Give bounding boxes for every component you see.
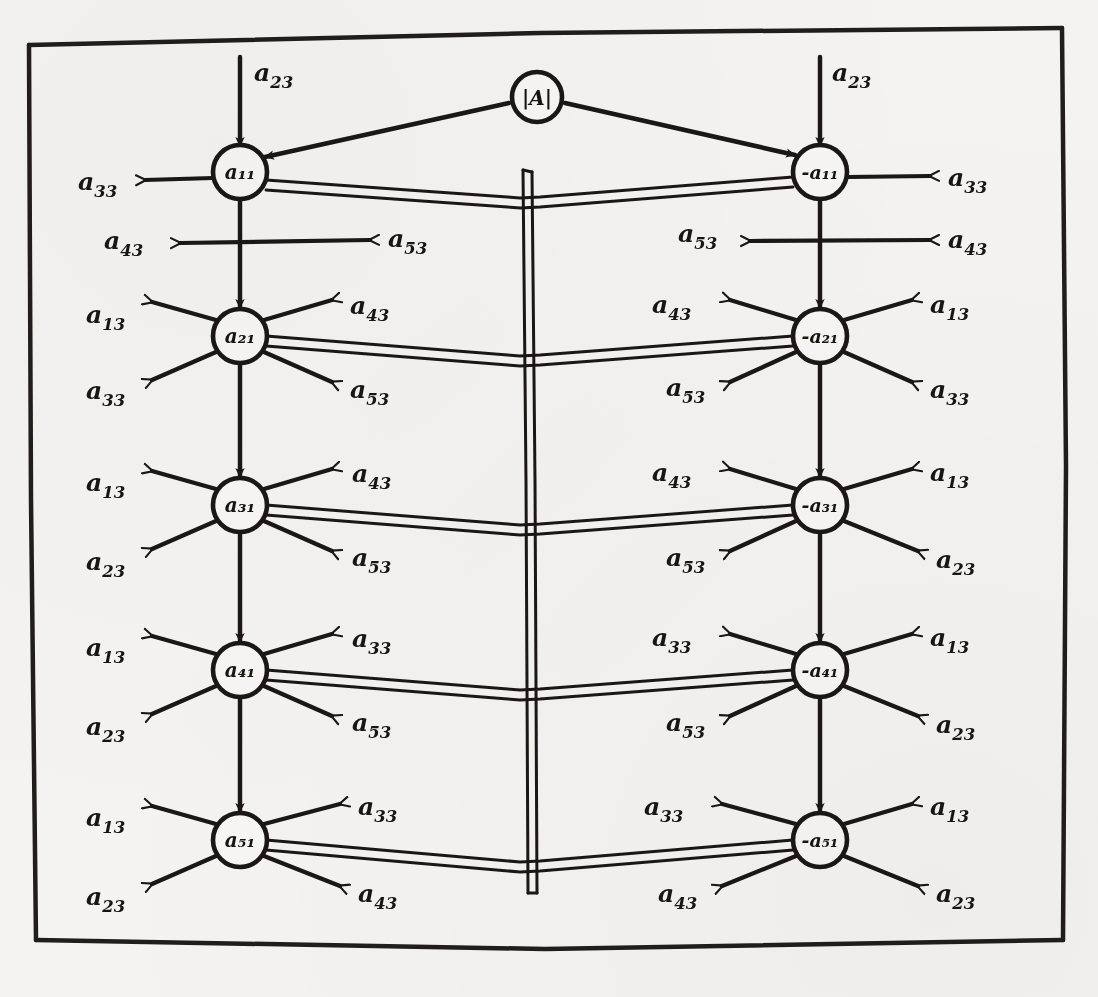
label-r2-left-ur: a43 <box>350 291 389 325</box>
node-a21-label: a₂₁ <box>225 324 255 348</box>
label-r3-right-ur: a13 <box>930 458 969 492</box>
label-r1-left-top: a23 <box>254 58 293 92</box>
diagram-canvas: |A| <box>0 0 1098 997</box>
wire-r4-right-ll <box>730 686 796 716</box>
label-r4-left-ul: a13 <box>86 633 125 667</box>
label-r2-left-ul: a13 <box>86 300 125 334</box>
diagram-frame <box>29 28 1066 949</box>
label-r1-left-crossL: a43 <box>104 226 143 260</box>
wire-r5-right-lr <box>844 856 918 886</box>
wire-r4-left-lr <box>264 686 332 716</box>
wire-r2-left-ur <box>264 300 332 320</box>
wire-r4-left-ur <box>264 634 332 654</box>
label-r2-left-lr: a53 <box>350 375 389 409</box>
label-r1-right-crossR: a43 <box>948 225 987 259</box>
wire-r2-right-ur <box>844 300 912 320</box>
node-a31-label: a₃₁ <box>225 493 255 517</box>
label-r2-right-lr: a33 <box>930 375 969 409</box>
label-r1-left-crossR: a53 <box>388 224 427 258</box>
node-neg-a11-label: -a₁₁ <box>802 161 839 183</box>
wire-r2-left-ul <box>152 302 216 320</box>
node-circles <box>213 145 847 867</box>
node-neg-a51-label: -a₅₁ <box>802 829 839 851</box>
wire-r5-right-ll <box>722 856 796 886</box>
wire-r3-left-ur <box>264 469 332 489</box>
wire-r3-left-lr <box>264 521 332 551</box>
wire-r5-left-ll <box>152 856 216 884</box>
wire-r1-right-a33 <box>848 176 930 177</box>
label-r5-right-ul: a33 <box>644 792 683 826</box>
label-r5-left-ur: a33 <box>358 792 397 826</box>
label-r5-left-ll: a23 <box>86 882 125 916</box>
wire-r5-left-ul <box>152 806 216 824</box>
label-r4-right-ll: a53 <box>666 708 705 742</box>
label-r5-right-ur: a13 <box>930 792 969 826</box>
node-neg-a31-label: -a₃₁ <box>802 494 839 516</box>
wire-r5-left-lr <box>264 856 340 886</box>
label-r5-left-lr: a43 <box>358 879 397 913</box>
wire-r5-right-ur <box>844 804 912 824</box>
label-r2-left-ll: a33 <box>86 376 125 410</box>
edge-det-to-neg-a11 <box>565 103 795 155</box>
wire-r1-left-cross <box>180 240 370 243</box>
wire-r2-left-ll <box>152 352 216 380</box>
node-a51-label: a₅₁ <box>225 828 255 852</box>
wire-r2-left-lr <box>264 352 332 382</box>
label-r3-right-ul: a43 <box>652 458 691 492</box>
label-r2-right-ur: a13 <box>930 290 969 324</box>
label-r1-left-side: a33 <box>78 167 117 201</box>
node-a41-label: a₄₁ <box>225 658 255 682</box>
wire-r2-right-ul <box>730 300 796 320</box>
node-a11-label: a₁₁ <box>225 160 255 184</box>
wire-r3-left-ll <box>152 521 216 549</box>
label-r4-left-ur: a33 <box>352 624 391 658</box>
label-r3-left-ur: a43 <box>352 459 391 493</box>
rail-r5-upper <box>266 840 793 862</box>
label-r1-right-side: a33 <box>948 163 987 197</box>
label-r3-left-ul: a13 <box>86 468 125 502</box>
label-r2-right-ul: a43 <box>652 290 691 324</box>
scanned-page: |A| <box>0 0 1098 997</box>
label-r1-right-crossL: a53 <box>678 219 717 253</box>
label-r5-right-ll: a43 <box>658 879 697 913</box>
wire-r5-left-ur <box>264 804 340 824</box>
label-r3-right-lr: a23 <box>936 545 975 579</box>
node-neg-a41-label: -a₄₁ <box>802 659 839 681</box>
label-r4-right-ur: a13 <box>930 623 969 657</box>
label-r5-left-ul: a13 <box>86 803 125 837</box>
center-bus-bar <box>523 170 537 893</box>
wire-r4-left-ul <box>152 636 216 654</box>
label-r3-right-ll: a53 <box>666 543 705 577</box>
label-r4-right-lr: a23 <box>936 710 975 744</box>
label-r5-right-lr: a23 <box>936 879 975 913</box>
label-r3-left-lr: a53 <box>352 543 391 577</box>
wire-r4-left-ll <box>152 686 216 714</box>
node-determinant-label: |A| <box>522 86 552 110</box>
wire-r3-right-lr <box>844 521 918 551</box>
label-r3-left-ll: a23 <box>86 547 125 581</box>
wire-r1-right-cross <box>750 240 930 241</box>
label-r4-left-lr: a53 <box>352 708 391 742</box>
label-r4-left-ll: a23 <box>86 712 125 746</box>
wire-r2-right-ll <box>730 352 796 382</box>
label-r2-right-ll: a53 <box>666 373 705 407</box>
wire-r4-right-ul <box>730 634 796 654</box>
wire-r3-left-ul <box>152 471 216 489</box>
label-r4-right-ul: a33 <box>652 623 691 657</box>
wire-r5-right-ul <box>722 804 796 824</box>
wire-r2-right-lr <box>844 352 912 382</box>
wire-r3-right-ur <box>844 469 912 489</box>
wire-r3-right-ul <box>730 469 796 489</box>
wire-r1-left-a33 <box>145 178 213 180</box>
node-neg-a21-label: -a₂₁ <box>802 325 839 347</box>
edge-det-to-a11 <box>265 103 509 157</box>
wire-r4-right-lr <box>844 686 918 716</box>
wire-r3-right-ll <box>730 521 796 551</box>
determinant-source-group: |A| <box>265 72 795 157</box>
label-r1-right-top: a23 <box>832 58 871 92</box>
wire-r4-right-ur <box>844 634 912 654</box>
